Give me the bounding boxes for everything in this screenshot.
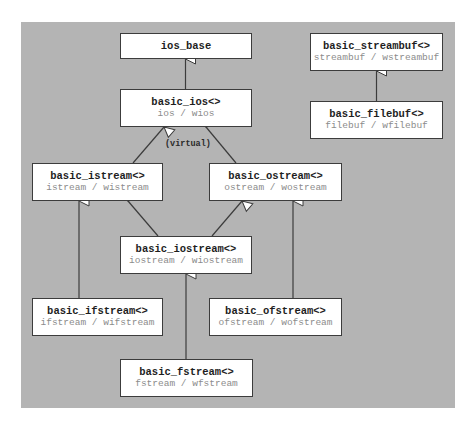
- node-alias: streambuf / wstreambuf: [314, 52, 439, 64]
- node-alias: ifstream / wifstream: [40, 317, 154, 329]
- edge-istream-to-ios: [133, 127, 164, 163]
- node-basic-istream[interactable]: basic_istream<> istream / wistream: [32, 163, 163, 201]
- edge-iostream-to-ostream: [212, 201, 242, 236]
- node-alias: istream / wistream: [46, 182, 149, 194]
- node-basic-streambuf[interactable]: basic_streambuf<> streambuf / wstreambuf: [310, 33, 443, 71]
- node-ios-base[interactable]: ios_base: [120, 33, 252, 59]
- node-name: basic_ostream<>: [228, 170, 323, 182]
- node-name: basic_istream<>: [50, 170, 145, 182]
- node-alias: ios / wios: [157, 108, 214, 120]
- node-alias: ostream / wostream: [224, 182, 327, 194]
- node-basic-iostream[interactable]: basic_iostream<> iostream / wiostream: [120, 236, 252, 274]
- node-basic-fstream[interactable]: basic_fstream<> fstream / wfstream: [120, 359, 253, 397]
- node-name: basic_iostream<>: [136, 243, 237, 255]
- node-alias: filebuf / wfilebuf: [325, 120, 428, 132]
- node-alias: ofstream / wofstream: [218, 317, 332, 329]
- node-basic-filebuf[interactable]: basic_filebuf<> filebuf / wfilebuf: [310, 101, 443, 139]
- node-alias: iostream / wiostream: [129, 255, 243, 267]
- node-alias: fstream / wfstream: [135, 378, 238, 390]
- node-name: basic_fstream<>: [139, 366, 234, 378]
- node-name: basic_ifstream<>: [47, 305, 148, 317]
- node-name: basic_ios<>: [151, 96, 220, 108]
- node-name: ios_base: [161, 40, 211, 52]
- node-name: basic_filebuf<>: [329, 108, 424, 120]
- node-basic-ostream[interactable]: basic_ostream<> ostream / wostream: [209, 163, 342, 201]
- node-basic-ifstream[interactable]: basic_ifstream<> ifstream / wifstream: [32, 298, 163, 336]
- node-name: basic_ofstream<>: [225, 305, 326, 317]
- node-basic-ios[interactable]: basic_ios<> ios / wios: [120, 89, 252, 127]
- virtual-label: (virtual): [165, 139, 211, 149]
- node-name: basic_streambuf<>: [323, 40, 430, 52]
- edge-iostream-to-istream: [128, 201, 158, 236]
- node-basic-ofstream[interactable]: basic_ofstream<> ofstream / wofstream: [209, 298, 342, 336]
